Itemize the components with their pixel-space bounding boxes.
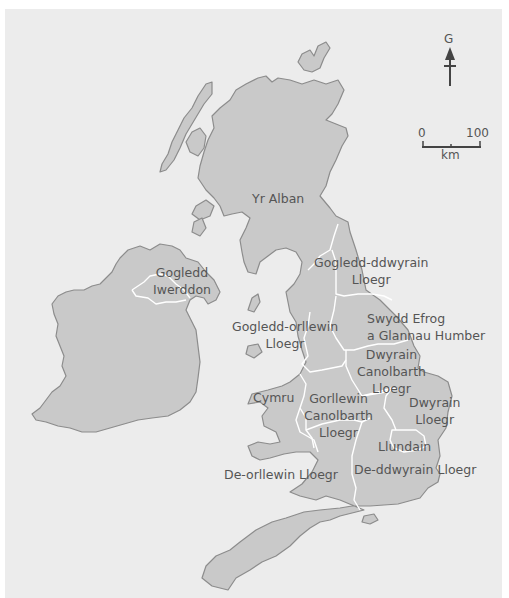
region-label-wales: Cymru	[253, 389, 294, 406]
region-label-east-of-england: Dwyrain Lloegr	[409, 394, 460, 428]
region-label-scotland: Yr Alban	[252, 190, 304, 207]
isle-of-man	[248, 294, 260, 312]
region-label-south-east-england: De-ddwyrain Lloegr	[354, 461, 476, 478]
region-label-north-east-england: Gogledd-ddwyrain Lloegr	[314, 254, 429, 288]
region-label-yorkshire-humber: Swydd Efrog a Glannau Humber	[367, 310, 485, 344]
uk-ireland-map	[0, 0, 509, 598]
north-label: G	[444, 32, 453, 46]
scale-end-label: 100	[466, 126, 489, 140]
north-arrow-icon	[444, 47, 456, 86]
scale-unit-label: km	[441, 148, 460, 162]
orkney-islands	[298, 42, 330, 72]
isle-of-islay	[192, 218, 206, 236]
isle-of-mull	[192, 200, 214, 220]
region-label-west-midlands: Gorllewin Canolbarth Lloegr	[304, 390, 373, 441]
region-label-northern-ireland: Gogledd Iwerddon	[153, 264, 211, 298]
region-label-north-west-england: Gogledd-orllewin Lloegr	[232, 318, 338, 352]
scale-start-label: 0	[418, 126, 426, 140]
region-label-london: Llundain	[378, 438, 431, 455]
scale-bar-icon	[422, 141, 481, 148]
region-label-south-west-england: De-orllewin Lloegr	[224, 466, 338, 483]
isle-of-wight	[362, 514, 378, 524]
isle-of-skye	[186, 128, 206, 156]
